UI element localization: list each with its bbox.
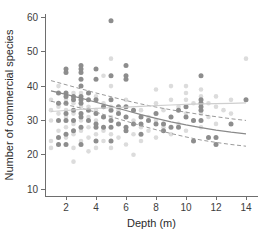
data-point [161,121,166,126]
data-point [56,135,61,140]
data-point [94,132,99,137]
data-point [154,111,159,116]
data-point [154,121,159,126]
data-point [169,115,174,120]
data-point [124,73,129,78]
data-point [94,121,99,126]
data-point [49,146,54,151]
x-tick-label: 10 [180,202,192,213]
data-point [176,125,181,130]
data-point [64,66,69,71]
data-point [101,125,106,130]
data-point [86,118,91,123]
data-point [71,128,76,133]
data-point [139,108,144,113]
data-point [94,66,99,71]
data-point [56,111,61,116]
data-point [86,135,91,140]
data-point [56,84,61,89]
data-point [124,115,129,120]
data-point [109,139,114,144]
x-tick-label: 6 [123,202,129,213]
data-point [184,84,189,89]
data-point [229,121,234,126]
data-point [221,108,226,113]
x-tick-label: 2 [63,202,69,213]
data-point [64,142,69,147]
data-point [109,132,114,137]
data-point [244,97,249,102]
data-point [146,118,151,123]
data-point [191,139,196,144]
data-point [229,98,234,103]
data-point [94,139,99,144]
data-point [79,142,84,147]
data-point [79,84,84,89]
data-point [191,118,196,123]
y-tick-label: 20 [27,149,39,160]
y-tick-label: 60 [27,12,39,23]
data-point [56,128,61,133]
data-point [124,125,129,130]
data-point [176,108,181,113]
data-point [79,111,84,116]
data-point [116,135,121,140]
data-point [101,74,106,79]
data-point [184,115,189,120]
data-point [64,118,69,123]
data-point [79,125,84,130]
data-point [244,56,249,61]
y-tick-label: 40 [27,81,39,92]
data-point [64,111,69,116]
data-point [56,118,61,123]
data-point [109,18,114,23]
data-point [49,118,54,123]
data-point [199,97,204,102]
data-point [71,159,76,164]
data-point [56,142,61,147]
data-point [94,146,99,151]
data-point [64,125,69,130]
data-point [71,118,76,123]
data-point [191,101,196,106]
data-point [109,97,114,102]
data-point [116,121,121,126]
data-point [124,63,129,68]
data-point [214,122,219,127]
data-point [199,73,204,78]
x-tick-label: 4 [93,202,99,213]
data-point [169,98,174,103]
data-point [109,125,114,130]
data-point [139,132,144,137]
data-point [79,63,84,68]
data-point [169,84,174,89]
data-point [64,132,69,137]
data-point [154,135,159,140]
data-point [79,77,84,82]
data-point [49,139,54,144]
data-point [214,104,219,109]
y-tick-label: 10 [27,184,39,195]
scatter-plot-figure: 1020304050602468101214Depth (m)Number of… [0,0,267,247]
y-axis-title: Number of commercial species [3,29,15,180]
data-point [124,142,129,147]
data-point [146,128,151,133]
data-point [101,139,106,144]
data-point [214,94,219,99]
y-tick-label: 50 [27,46,39,57]
data-point [184,128,189,133]
data-point [86,125,91,130]
data-point [131,152,136,157]
data-point [131,132,136,137]
axes-layer [41,14,258,200]
data-point [109,84,114,89]
data-point [86,149,91,154]
data-point [109,146,114,151]
plot-canvas: 1020304050602468101214Depth (m)Number of… [0,0,267,247]
data-point [169,125,174,130]
data-point [154,101,159,106]
x-tick-label: 14 [240,202,252,213]
data-point [94,77,99,82]
x-tick-label: 12 [210,202,222,213]
data-point [184,98,189,103]
